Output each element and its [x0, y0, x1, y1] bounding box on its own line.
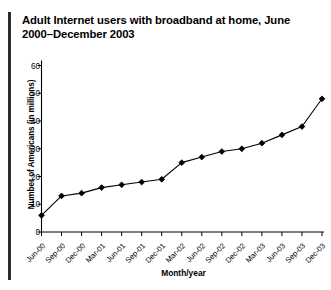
data-point-marker: [199, 154, 205, 160]
data-point-marker: [119, 182, 125, 188]
data-point-marker: [99, 185, 105, 191]
data-point-marker: [219, 149, 225, 155]
figure-container: Adult Internet users with broadband at h…: [0, 0, 331, 290]
data-line-series: [42, 99, 323, 216]
data-point-marker: [279, 132, 285, 138]
data-point-marker: [139, 179, 145, 185]
data-point-marker: [79, 190, 85, 196]
data-point-marker: [239, 146, 245, 152]
plot-area: Number of Americans (in millions) 010203…: [0, 0, 331, 290]
data-point-marker: [259, 140, 265, 146]
line-chart-svg: [0, 0, 331, 290]
